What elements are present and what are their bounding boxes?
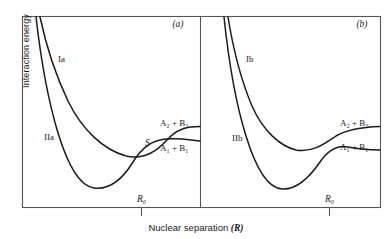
asymptote-label-lower-a: A₁ + B₁ (160, 143, 188, 153)
asymptote-label-lower-b: A₁ + B₁ (340, 142, 368, 152)
x-axis-label-symbol: (R) (231, 223, 244, 233)
crossing-point-label-S: S (145, 138, 150, 148)
panel-a-tag: (a) (172, 19, 183, 30)
asymptote-label-upper-b: A₂ + B₂ (340, 118, 368, 128)
panel-b-tag: (b) (356, 19, 367, 30)
y-axis-label: Interaction energy (21, 0, 31, 131)
panel-b: (b) Ib IIb A₂ + B₂ A₁ + B₁ R₀ (224, 17, 380, 216)
curve-label-Ia: Ia (58, 54, 65, 64)
equilibrium-label-a: R₀ (136, 194, 146, 204)
curve-label-IIb: IIb (232, 133, 243, 143)
plot-frame (23, 17, 381, 208)
curve-label-IIa: IIa (44, 132, 54, 142)
x-axis-label: Nuclear separation (R) (0, 222, 392, 233)
x-axis-label-text: Nuclear separation (148, 222, 228, 233)
curve-IIb (224, 17, 380, 189)
equilibrium-label-b: R₀ (324, 194, 334, 204)
curve-label-Ib: Ib (246, 54, 254, 64)
figure-canvas: (a) Ia IIa S A₂ + B₂ A₁ + B₁ R₀ (0, 0, 392, 239)
potential-energy-curve-figure: Interaction energy (a) Ia IIa S A₂ + B₂ (0, 0, 392, 239)
asymptote-label-upper-a: A₂ + B₂ (160, 118, 188, 128)
curve-IIa (36, 17, 200, 188)
curve-Ia (40, 17, 200, 157)
panel-a: (a) Ia IIa S A₂ + B₂ A₁ + B₁ R₀ (36, 17, 200, 216)
curve-Ib (228, 17, 380, 151)
